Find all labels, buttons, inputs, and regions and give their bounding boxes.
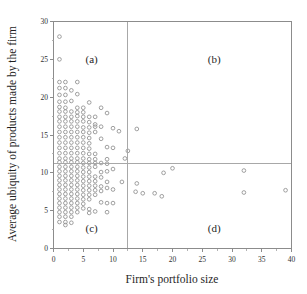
data-point [87, 131, 91, 135]
data-point [75, 114, 79, 118]
data-point [70, 179, 74, 183]
data-point [58, 215, 62, 219]
data-point [70, 89, 74, 93]
data-point [284, 188, 288, 192]
data-point [58, 135, 62, 139]
quadrant-labels: (a)(b)(c)(d) [85, 53, 220, 235]
data-point [64, 157, 68, 161]
data-point [64, 130, 68, 134]
data-point [134, 190, 138, 194]
data-point [75, 120, 79, 124]
data-point [64, 192, 68, 196]
data-point [58, 130, 62, 134]
data-point [81, 197, 85, 201]
data-point [111, 146, 115, 150]
data-point [93, 130, 97, 134]
data-point [123, 157, 127, 161]
data-point [135, 127, 139, 131]
data-point [87, 188, 91, 192]
data-point [64, 197, 68, 201]
data-point [64, 141, 68, 145]
data-point [58, 125, 62, 129]
data-point [64, 146, 68, 150]
data-point [93, 210, 97, 214]
data-point [99, 125, 103, 129]
data-point [160, 194, 164, 198]
data-point [87, 141, 91, 145]
x-tick-label: 40 [288, 255, 296, 264]
data-point [111, 126, 115, 130]
data-point [81, 184, 85, 188]
quadrant-label-d: (d) [208, 222, 221, 235]
data-point [58, 179, 62, 183]
data-point [135, 182, 139, 186]
data-point [87, 166, 91, 170]
data-point [64, 125, 68, 129]
data-point [99, 176, 103, 180]
y-tick-label: 30 [41, 17, 49, 26]
data-point [70, 99, 74, 103]
data-point [64, 165, 68, 169]
data-point [81, 130, 85, 134]
data-point [58, 110, 62, 114]
data-point [58, 146, 62, 150]
y-tick-label: 0 [44, 244, 48, 253]
data-point [87, 120, 91, 124]
data-point [75, 165, 79, 169]
x-tick-label: 35 [258, 255, 266, 264]
data-point [58, 57, 62, 61]
data-point [58, 188, 62, 192]
data-point [81, 106, 85, 110]
data-point [75, 151, 79, 155]
data-point [99, 106, 103, 110]
data-point [58, 100, 62, 104]
x-axis-title: Firm's portfolio size [126, 273, 219, 286]
data-point [58, 201, 62, 205]
data-point [99, 170, 103, 174]
data-point [81, 120, 85, 124]
data-point [58, 183, 62, 187]
data-point [93, 184, 97, 188]
data-point [75, 125, 79, 129]
data-point [75, 135, 79, 139]
data-point [75, 106, 79, 110]
data-point [99, 137, 103, 141]
plot-canvas: 0510152025303540 051015202530 (a)(b)(c)(… [0, 0, 307, 294]
data-point [75, 146, 79, 150]
data-point [93, 175, 97, 179]
data-point [70, 157, 74, 161]
data-point [70, 215, 74, 219]
data-point [81, 126, 85, 130]
data-point [58, 192, 62, 196]
y-tick-label: 20 [41, 93, 49, 102]
data-point [70, 151, 74, 155]
data-point [117, 129, 121, 133]
data-point [64, 86, 68, 90]
data-point [70, 169, 74, 173]
x-tick-label: 25 [199, 255, 207, 264]
data-point [87, 197, 91, 201]
data-point [75, 157, 79, 161]
data-point [242, 191, 246, 195]
quadrant-label-c: (c) [85, 222, 98, 235]
data-point [87, 175, 91, 179]
data-point [75, 179, 79, 183]
data-point [58, 86, 62, 90]
data-point [87, 115, 91, 119]
data-point [105, 157, 109, 161]
data-point [70, 125, 74, 129]
data-point [87, 184, 91, 188]
data-point [58, 120, 62, 124]
data-point [81, 170, 85, 174]
data-point [75, 160, 79, 164]
data-point [87, 152, 91, 156]
data-point [75, 130, 79, 134]
data-point [75, 80, 79, 84]
data-point [75, 174, 79, 178]
data-point [70, 160, 74, 164]
data-point [141, 191, 145, 195]
data-point [58, 220, 62, 224]
data-point [70, 110, 74, 114]
data-point [93, 152, 97, 156]
data-point [81, 135, 85, 139]
